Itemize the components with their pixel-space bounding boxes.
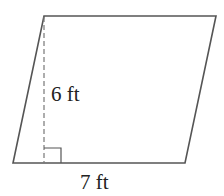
right-angle-marker <box>44 148 61 163</box>
parallelogram-diagram: 6 ft 7 ft <box>0 0 224 196</box>
height-label: 6 ft <box>51 82 80 106</box>
base-label: 7 ft <box>80 170 109 194</box>
